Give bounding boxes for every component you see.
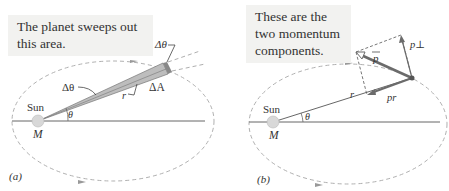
- caption-b-line-2: two momentum: [255, 25, 345, 42]
- planet-icon: [410, 76, 415, 81]
- theta-arc: [301, 113, 303, 122]
- r-label: r: [122, 90, 127, 101]
- sun-label: Sun: [263, 103, 281, 115]
- p-r-vector: [371, 78, 412, 93]
- extension-line-2: [172, 64, 205, 71]
- caption-b: These are the two momentum components.: [246, 5, 351, 63]
- orbit-arrow-bottom-icon: [315, 183, 323, 187]
- caption-a: The planet sweeps out this area.: [8, 15, 153, 56]
- orbit-arrow-bottom-icon: [78, 180, 86, 184]
- caption-b-line-1: These are the: [255, 8, 345, 25]
- delta-theta-label: Δθ: [62, 81, 74, 93]
- p-perp-arrowhead-icon: [399, 35, 405, 43]
- panel-a-area-swept: Sun M θ Δθ r r Δθ ΔA (a) The planet swee…: [0, 0, 225, 191]
- mass-label: M: [268, 129, 280, 141]
- p-perp-label: p⊥: [409, 39, 425, 50]
- sun-icon: [32, 115, 44, 127]
- delta-area-label: ΔA: [149, 81, 165, 93]
- theta-label: θ: [68, 109, 73, 120]
- p-r-label: pr: [386, 92, 397, 103]
- extension-line-1: [168, 51, 200, 62]
- mass-label: M: [32, 128, 44, 140]
- caption-a-line-1: The planet sweeps out: [17, 18, 147, 35]
- panel-label-a: (a): [9, 170, 22, 183]
- sun-icon: [267, 116, 279, 128]
- p-vector: [361, 55, 412, 78]
- sun-label: Sun: [27, 101, 45, 113]
- caption-a-line-2: this area.: [17, 35, 147, 52]
- panel-b-momentum-components: Sun M θ r p p⊥ pr (b) These are the two …: [225, 0, 449, 191]
- r-label: r: [350, 89, 355, 100]
- p-label: p: [372, 52, 379, 64]
- r-delta-theta-leader: [167, 45, 175, 62]
- panel-label-b: (b): [257, 173, 270, 186]
- caption-b-line-3: components.: [255, 42, 345, 59]
- radius-line: [38, 69, 166, 121]
- theta-label: θ: [305, 111, 310, 122]
- delta-theta-leader: [78, 87, 96, 95]
